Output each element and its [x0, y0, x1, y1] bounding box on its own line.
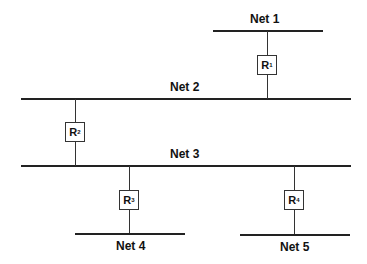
- router-r2: R2: [65, 122, 85, 142]
- router-r3-letter: R: [123, 194, 131, 206]
- net-5-line: [240, 234, 350, 236]
- net-1-label: Net 1: [250, 12, 279, 26]
- router-r1-letter: R: [261, 59, 269, 71]
- net-2-line: [21, 98, 351, 100]
- net-4-label: Net 4: [116, 239, 145, 253]
- router-r3: R3: [119, 190, 139, 210]
- router-r2-letter: R: [69, 126, 77, 138]
- net-4-line: [75, 233, 185, 235]
- router-r4-letter: R: [288, 194, 296, 206]
- net-3-line: [21, 165, 351, 167]
- router-r4: R4: [284, 190, 304, 210]
- router-r1: R1: [257, 55, 277, 75]
- net-2-label: Net 2: [170, 80, 199, 94]
- net-5-label: Net 5: [280, 240, 309, 254]
- net-1-line: [213, 30, 323, 32]
- net-3-label: Net 3: [170, 147, 199, 161]
